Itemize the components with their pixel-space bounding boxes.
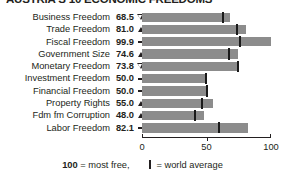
value-bar: [142, 37, 271, 46]
indicator-label: Property Rights: [0, 97, 110, 109]
indicator-score: 48.0: [111, 109, 134, 121]
bar-track: [142, 11, 271, 23]
world-average-marker-icon: [149, 160, 151, 169]
indicator-score: 50.0: [111, 72, 134, 84]
value-bar: [142, 25, 246, 34]
indicator-score: 74.6: [111, 48, 134, 60]
page-title: AUSTRIA'S 10 ECONOMIC FREEDOMS: [6, 0, 281, 5]
axis-tick-label: 100: [263, 142, 279, 153]
bar-track: [142, 60, 271, 72]
world-average-tick: [222, 12, 224, 23]
indicator-label: Business Freedom: [0, 11, 110, 23]
indicator-score: 82.1: [111, 122, 134, 134]
bar-track: [142, 48, 271, 60]
bar-track: [142, 122, 271, 134]
bar-track: [142, 23, 271, 35]
indicator-label: Fdm fm Corruption: [0, 109, 110, 121]
world-average-tick: [218, 122, 220, 133]
economic-freedoms-chart: AUSTRIA'S 10 ECONOMIC FREEDOMS Business …: [0, 0, 285, 177]
axis-tick: [207, 137, 208, 141]
bar-track: [142, 72, 271, 84]
indicator-label: Trade Freedom: [0, 23, 110, 35]
legend-world-average-text: = world average: [156, 160, 222, 170]
indicator-label: Investment Freedom: [0, 72, 110, 84]
value-bar: [142, 49, 238, 58]
indicator-score: 55.0: [111, 97, 134, 109]
world-average-tick: [228, 48, 230, 59]
axis-tick-label: 0: [139, 142, 144, 153]
axis-tick: [270, 134, 271, 138]
value-bar: [142, 86, 207, 95]
indicator-label: Financial Freedom: [0, 85, 110, 97]
bar-track: [142, 85, 271, 97]
indicator-score: 68.5: [111, 11, 134, 23]
legend-most-free-text: = most free,: [80, 160, 129, 170]
x-axis-tick-labels: 050100: [132, 142, 282, 154]
bars-plot-area: [142, 11, 271, 134]
chart-legend: 100 = most free, = world average: [0, 158, 285, 172]
value-bar: [142, 123, 248, 132]
indicator-score: 81.0: [111, 23, 134, 35]
indicator-label: Labor Freedom: [0, 122, 110, 134]
value-bar: [142, 62, 237, 71]
world-average-tick: [201, 98, 203, 109]
world-average-tick: [237, 61, 239, 72]
value-bar: [142, 74, 207, 83]
indicator-score: 50.0: [111, 85, 134, 97]
legend-most-free-number: 100: [62, 160, 78, 170]
indicator-label: Fiscal Freedom: [0, 36, 110, 48]
bar-track: [142, 36, 271, 48]
indicator-score: 99.9: [111, 36, 134, 48]
value-bar: [142, 13, 230, 22]
indicator-label: Government Size: [0, 48, 110, 60]
world-average-tick: [205, 73, 207, 84]
world-average-tick: [239, 36, 241, 47]
axis-tick-label: 50: [201, 142, 211, 153]
bar-track: [142, 97, 271, 109]
axis-tick: [142, 134, 143, 138]
world-average-tick: [206, 85, 208, 96]
indicator-label: Monetary Freedom: [0, 60, 110, 72]
indicator-score: 73.8: [111, 60, 134, 72]
world-average-tick: [236, 24, 238, 35]
world-average-tick: [194, 110, 196, 121]
bar-track: [142, 109, 271, 121]
